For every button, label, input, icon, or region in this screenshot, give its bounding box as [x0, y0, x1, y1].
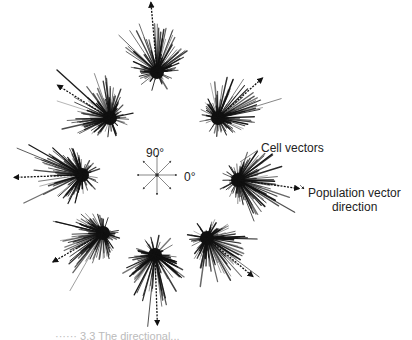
direction-compass-icon [137, 155, 177, 195]
population-vector-label-line2: direction [332, 200, 377, 214]
cluster-dir-225 [53, 214, 120, 291]
cluster-dir-315 [188, 220, 260, 287]
cluster-dir-135 [57, 70, 133, 137]
cell-vectors-label: Cell vectors [261, 141, 324, 155]
figure-caption: ······ 3.3 The directional... [55, 330, 180, 340]
cluster-dir-270 [123, 236, 184, 327]
cluster-dir-180 [14, 145, 100, 204]
cluster-dir-45 [200, 78, 281, 137]
cluster-dir-0 [220, 152, 299, 221]
compass-label-90: 90° [146, 146, 164, 160]
cluster-dir-90 [119, 2, 187, 90]
compass-label-0: 0° [184, 170, 195, 184]
population-vector-figure [0, 0, 412, 340]
population-vector-label: Population vector [308, 186, 401, 200]
